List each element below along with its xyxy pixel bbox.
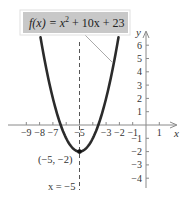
function-label-text: f(x) = x2 + 10x + 23: [29, 15, 125, 30]
y-tick-label: 1: [137, 106, 142, 117]
x-tick-label: −7: [48, 127, 59, 138]
y-tick-label: 2: [137, 93, 142, 104]
y-tick-label: 3: [137, 80, 142, 91]
y-tick-label: −4: [131, 173, 142, 184]
x-tick-label: −3: [101, 127, 112, 138]
y-tick-label: −3: [131, 159, 142, 170]
y-tick-label: −2: [131, 146, 142, 157]
axis-of-symmetry: x = −5: [48, 42, 80, 192]
x-tick-label: 1: [157, 127, 162, 138]
y-tick-label: 6: [137, 40, 142, 51]
x-tick-label: −2: [114, 127, 125, 138]
label-leader-line: [85, 35, 112, 62]
y-axis-label: y: [135, 26, 141, 38]
y-tick-label: −1: [131, 133, 142, 144]
vertex-label: (−5, −2): [38, 154, 73, 166]
x-axis-label: x: [173, 127, 179, 139]
y-tick-label: 4: [137, 66, 142, 77]
vertex-point: [77, 149, 82, 154]
symmetry-label: x = −5: [48, 181, 76, 192]
x-tick-label: −8: [34, 127, 45, 138]
axes: xy: [8, 26, 179, 188]
function-label: f(x) = x2 + 10x + 23: [20, 10, 130, 62]
parabola-chart: xy −9−8−7−5−3−2−11654321−1−2−3−4 x = −5 …: [0, 0, 186, 205]
x-tick-label: −9: [21, 127, 32, 138]
y-tick-label: 5: [137, 53, 142, 64]
